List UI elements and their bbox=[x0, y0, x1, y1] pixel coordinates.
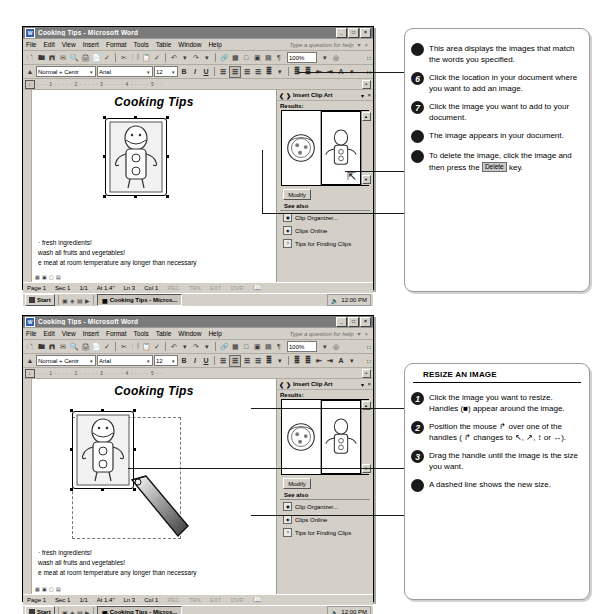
minimize-button[interactable]: _ bbox=[336, 317, 347, 327]
print-icon[interactable]: 🖨 bbox=[80, 342, 90, 352]
ruler-scroll-up-icon[interactable]: ▲ bbox=[362, 80, 371, 89]
menu-edit[interactable]: Edit bbox=[43, 41, 54, 48]
word-window-bottom[interactable]: W Cooking Tips - Microsoft Word _ □ × Fi… bbox=[22, 315, 374, 602]
tab-stop-selector[interactable]: L bbox=[25, 369, 35, 378]
font-chevron-down-icon[interactable]: ▾ bbox=[146, 69, 151, 75]
font-color-chevron-down-icon[interactable]: ▾ bbox=[347, 356, 357, 366]
align-center-icon[interactable]: ☰ bbox=[229, 66, 241, 78]
decrease-indent-icon[interactable]: ⇤ bbox=[314, 356, 324, 366]
maximize-button[interactable]: □ bbox=[348, 28, 359, 38]
menu-chevron-down-icon[interactable]: ▾ bbox=[357, 330, 360, 337]
task-pane-header[interactable]: ❮ ❯ Insert Clip Art ▾ × bbox=[277, 379, 373, 390]
new-document-icon[interactable]: 🗋 bbox=[25, 53, 35, 63]
italic-button[interactable]: I bbox=[190, 67, 200, 77]
document-body[interactable]: · fresh ingredients! wash all fruits and… bbox=[38, 238, 268, 268]
minimize-button[interactable]: _ bbox=[336, 28, 347, 38]
resize-handle[interactable] bbox=[70, 488, 73, 491]
tables-and-borders-icon[interactable]: ▦ bbox=[230, 342, 240, 352]
task-pane-chevron-down-icon[interactable]: ▾ bbox=[361, 92, 364, 99]
clip-art-thumbnail[interactable] bbox=[282, 111, 321, 185]
font-size-chevron-down-icon[interactable]: ▾ bbox=[171, 69, 176, 75]
close-button[interactable]: × bbox=[360, 317, 371, 327]
ruler-scroll-up-icon[interactable]: ▲ bbox=[362, 369, 371, 378]
back-arrow-icon[interactable]: ❮ bbox=[279, 381, 284, 388]
web-layout-view-icon[interactable]: ▣ bbox=[42, 586, 47, 592]
horizontal-ruler[interactable]: L · · · 1 · · · · · 2 · · · · · 3 · · · … bbox=[23, 368, 373, 379]
insert-excel-icon[interactable]: ▣ bbox=[252, 342, 262, 352]
taskbar[interactable]: Start ▣ ◈ ▤ ▶ ▦ Cooking Tips - Micros...… bbox=[23, 605, 373, 614]
search-icon[interactable]: 🔍 bbox=[69, 53, 79, 63]
resize-handle[interactable] bbox=[70, 448, 73, 451]
zoom-dropdown-icon[interactable]: ▾ bbox=[320, 53, 330, 63]
insert-clip-art-task-pane[interactable]: ❮ ❯ Insert Clip Art ▾ × Results: bbox=[276, 379, 373, 594]
close-button[interactable]: × bbox=[360, 28, 371, 38]
resize-handle[interactable] bbox=[134, 116, 137, 119]
clip-art-results[interactable]: ⇱ ▲ ▼ bbox=[281, 110, 369, 186]
show-desktop-icon[interactable]: ▣ bbox=[62, 609, 68, 614]
results-scrollbar[interactable]: ▲ ▼ bbox=[361, 111, 370, 185]
status-ext[interactable]: EXT bbox=[210, 285, 222, 291]
print-layout-view-icon[interactable]: ▢ bbox=[49, 274, 54, 280]
resize-handle[interactable] bbox=[103, 155, 106, 158]
toolbar-overflow-icon[interactable]: ∷ bbox=[367, 344, 371, 350]
task-pane-controls[interactable]: ▾ × bbox=[361, 381, 371, 388]
back-arrow-icon[interactable]: ❮ bbox=[279, 92, 284, 99]
forward-arrow-icon[interactable]: ❯ bbox=[286, 381, 291, 388]
menu-chevron-down-icon[interactable]: ▾ bbox=[357, 41, 360, 48]
copy-icon[interactable]: 🗍 bbox=[130, 342, 140, 352]
align-center-icon[interactable]: ☰ bbox=[229, 355, 241, 367]
resize-handle[interactable] bbox=[166, 116, 169, 119]
cut-scissors-icon[interactable]: ✂ bbox=[119, 53, 129, 63]
font-size-box[interactable]: 12 ▾ bbox=[154, 355, 178, 366]
status-trk[interactable]: TRK bbox=[189, 597, 201, 603]
align-left-icon[interactable]: ☰ bbox=[218, 67, 228, 77]
font-color-icon[interactable]: A bbox=[336, 356, 346, 366]
status-ovr[interactable]: OVR bbox=[231, 597, 244, 603]
menu-bar[interactable]: File Edit View Insert Format Tools Table… bbox=[23, 39, 373, 51]
resize-handle[interactable] bbox=[103, 195, 106, 198]
task-pane-header[interactable]: ❮ ❯ Insert Clip Art ▾ × bbox=[277, 90, 373, 101]
menu-help[interactable]: Help bbox=[208, 330, 221, 337]
open-folder-icon[interactable]: 🖿 bbox=[36, 342, 46, 352]
redo-icon[interactable]: ↷ bbox=[191, 342, 201, 352]
title-bar[interactable]: W Cooking Tips - Microsoft Word _ □ × bbox=[23, 27, 373, 39]
web-layout-view-icon[interactable]: ▣ bbox=[42, 274, 47, 280]
link-clips-online[interactable]: ◉ Clips Online bbox=[277, 224, 373, 237]
resize-handle[interactable] bbox=[103, 116, 106, 119]
font-size-box[interactable]: 12 ▾ bbox=[154, 66, 178, 77]
outline-view-icon[interactable]: ▤ bbox=[56, 274, 61, 280]
toolbar-overflow-icon[interactable]: ∷ bbox=[367, 55, 371, 61]
bold-button[interactable]: B bbox=[179, 67, 189, 77]
undo-dropdown-icon[interactable]: ▾ bbox=[180, 342, 190, 352]
outline-view-icon[interactable]: ▤ bbox=[56, 586, 61, 592]
underline-button[interactable]: U bbox=[201, 67, 211, 77]
format-painter-icon[interactable]: ✓ bbox=[152, 342, 162, 352]
spell-check-icon[interactable]: 📖 bbox=[253, 284, 262, 292]
modify-button[interactable]: Modify bbox=[283, 189, 311, 200]
line-spacing-chevron-down-icon[interactable]: ▾ bbox=[275, 67, 285, 77]
resize-handle[interactable] bbox=[166, 155, 169, 158]
ask-a-question-box[interactable]: Type a question for help ▾ × bbox=[290, 41, 370, 48]
word-window-top[interactable]: W Cooking Tips - Microsoft Word _ □ × Fi… bbox=[22, 26, 374, 290]
menu-view[interactable]: View bbox=[62, 330, 76, 337]
outlook-icon[interactable]: ▤ bbox=[77, 297, 83, 304]
align-left-icon[interactable]: ☰ bbox=[218, 356, 228, 366]
forward-arrow-icon[interactable]: ❯ bbox=[286, 92, 291, 99]
maximize-button[interactable]: □ bbox=[348, 317, 359, 327]
menu-window[interactable]: Window bbox=[178, 41, 201, 48]
redo-dropdown-icon[interactable]: ▾ bbox=[202, 342, 212, 352]
show-desktop-icon[interactable]: ▣ bbox=[62, 297, 68, 304]
menu-insert[interactable]: Insert bbox=[83, 41, 99, 48]
link-tips-for-finding-clips[interactable]: ? Tips for Finding Clips bbox=[277, 237, 373, 250]
menu-file[interactable]: File bbox=[26, 330, 36, 337]
align-justify-icon[interactable]: ☰ bbox=[253, 356, 263, 366]
open-folder-icon[interactable]: 🖿 bbox=[36, 53, 46, 63]
cut-scissors-icon[interactable]: ✂ bbox=[119, 342, 129, 352]
normal-view-icon[interactable]: ▦ bbox=[35, 586, 40, 592]
underline-button[interactable]: U bbox=[201, 356, 211, 366]
undo-icon[interactable]: ↶ bbox=[169, 342, 179, 352]
menu-file[interactable]: File bbox=[26, 41, 36, 48]
bold-button[interactable]: B bbox=[179, 356, 189, 366]
resize-handle[interactable] bbox=[101, 488, 104, 491]
style-chevron-down-icon[interactable]: ▾ bbox=[89, 358, 94, 364]
